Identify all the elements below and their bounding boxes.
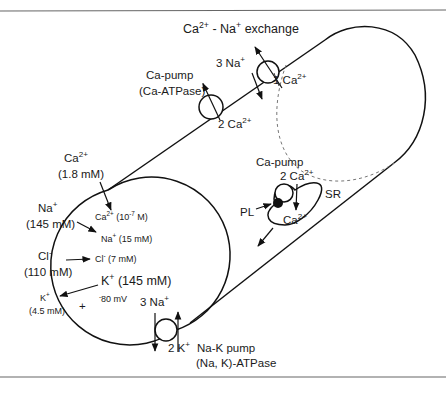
exchanger bbox=[252, 47, 282, 99]
sr-lumen-ion: Ca2+ bbox=[283, 212, 307, 226]
na-k-k-label: 2 K+ bbox=[168, 340, 190, 354]
int-cl-label: Cl- (7 mM) bbox=[95, 252, 137, 264]
phospholamban bbox=[273, 198, 283, 208]
int-na-label: Na+ (15 mM) bbox=[101, 232, 152, 244]
cell-diagram: Ca2+ - Na+ exchange 3 Na+ 1 Ca2+ Ca-pump… bbox=[0, 0, 446, 397]
top-border bbox=[0, 10, 446, 11]
exchanger-na-label: 3 Na+ bbox=[216, 55, 245, 69]
na-k-pump-label-2: (Na, K)-ATPase bbox=[196, 357, 276, 369]
na-k-pump-label-1: Na-K pump bbox=[197, 342, 255, 354]
membrane-potential: -80 mV bbox=[99, 293, 127, 304]
ca-pump-label-1: Ca-pump bbox=[146, 69, 193, 81]
na-k-na-label: 3 Na+ bbox=[140, 294, 169, 308]
ext-k-conc: (4.5 mM) bbox=[29, 306, 65, 316]
exchanger-label: Ca2+ - Na+ exchange bbox=[183, 20, 299, 36]
ext-charge: + bbox=[79, 300, 86, 312]
ext-k-ion: K+ bbox=[40, 291, 50, 303]
ext-ca-conc: (1.8 mM) bbox=[58, 168, 104, 180]
ext-na-conc: (145 mM) bbox=[26, 218, 75, 230]
ca-pump-label-2: (Ca-ATPase) bbox=[139, 85, 205, 97]
ca-pump-ion-label: 2 Ca2+ bbox=[218, 116, 252, 130]
exchanger-ca-label: 1 Ca2+ bbox=[273, 72, 307, 86]
ext-cl-ion: Cl- bbox=[38, 248, 52, 262]
int-ca-label: Ca2+ (10-7 M) bbox=[95, 210, 148, 222]
sr-pump-label: Ca-pump bbox=[256, 156, 303, 168]
ext-na-ion: Na+ bbox=[38, 200, 58, 214]
sr-label: SR bbox=[325, 188, 341, 200]
sr-pump-ion: 2 Ca2+ bbox=[280, 168, 314, 182]
ext-cl-conc: (110 mM) bbox=[24, 266, 73, 278]
int-k-label: K+ (145 mM) bbox=[101, 272, 171, 288]
ext-ca-ion: Ca2+ bbox=[64, 150, 88, 164]
pl-label: PL bbox=[240, 206, 255, 218]
